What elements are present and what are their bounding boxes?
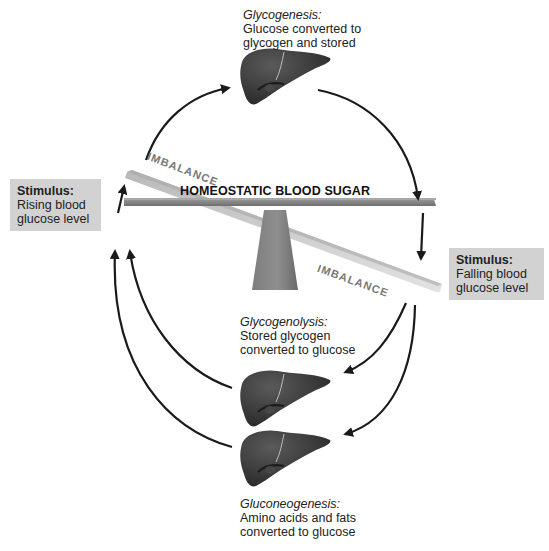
stimulus-falling-title: Stimulus: bbox=[456, 253, 536, 267]
gluconeogenesis-title: Gluconeogenesis: bbox=[240, 497, 356, 511]
glycogenesis-line2: glycogen and stored bbox=[243, 36, 361, 50]
stimulus-falling-line1: Falling blood bbox=[456, 267, 536, 281]
glycogenolysis-line1: Stored glycogen bbox=[240, 329, 355, 343]
glycogenolysis-title: Glycogenolysis: bbox=[240, 315, 355, 329]
liver-icon-top bbox=[240, 49, 330, 105]
homeostatic-lever bbox=[124, 198, 436, 206]
glycogenesis-label: Glycogenesis: Glucose converted to glyco… bbox=[243, 8, 361, 50]
glycogenolysis-line2: converted to glucose bbox=[240, 343, 355, 357]
stimulus-rising-box: Stimulus: Rising blood glucose level bbox=[10, 179, 101, 231]
gluconeogenesis-label: Gluconeogenesis: Amino acids and fats co… bbox=[240, 497, 356, 539]
glycogenesis-title: Glycogenesis: bbox=[243, 8, 361, 22]
stimulus-rising-title: Stimulus: bbox=[17, 184, 93, 198]
liver-icon-middle bbox=[240, 371, 330, 427]
stimulus-falling-line2: glucose level bbox=[456, 281, 536, 295]
homeostatic-blood-sugar-label: HOMEOSTATIC BLOOD SUGAR bbox=[180, 184, 370, 198]
glycogenesis-line1: Glucose converted to bbox=[243, 22, 361, 36]
gluconeogenesis-line2: converted to glucose bbox=[240, 525, 356, 539]
gluconeogenesis-line1: Amino acids and fats bbox=[240, 511, 356, 525]
stimulus-falling-box: Stimulus: Falling blood glucose level bbox=[449, 248, 544, 300]
liver-icon-bottom bbox=[240, 431, 330, 487]
glycogenolysis-label: Glycogenolysis: Stored glycogen converte… bbox=[240, 315, 355, 357]
stimulus-rising-line1: Rising blood bbox=[17, 198, 93, 212]
stimulus-rising-line2: glucose level bbox=[17, 212, 93, 226]
